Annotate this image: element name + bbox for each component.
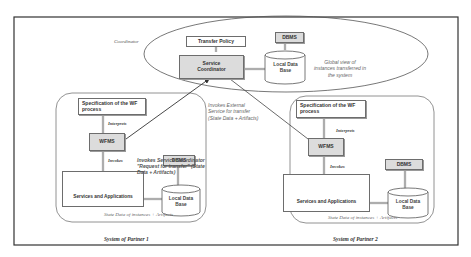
coordinator-local-db-label: Local Data Base — [266, 62, 305, 74]
partner1-spec-box: Specification of the WFprocess — [78, 98, 146, 115]
invokes-coordinator-note: Invokes Service Coordinator "Request for… — [137, 157, 205, 175]
partner2-local-db-label: Local Data Base — [388, 199, 428, 211]
partner1-wfms-box: WFMS — [89, 133, 125, 151]
invokes-external-note: Invokes External Service for transfer (S… — [208, 102, 259, 121]
coordinator-label: Coordinator — [114, 39, 139, 44]
partner2-spec-box: Specification of the WFprocess — [296, 100, 366, 118]
transfer-policy-box: Transfer Policy — [186, 36, 246, 47]
partner2-services-box: Services and Applications — [283, 174, 370, 212]
service-coordinator-box: Service Coordinator — [179, 55, 244, 79]
coordinator-dbms-box: DBMS — [275, 32, 304, 43]
partner1-state-data-label: State Data of instances + Artifacts — [104, 212, 173, 218]
global-view-note: Global view of instances transferred in … — [314, 59, 366, 78]
partner2-caption: System of Partner 2 — [333, 236, 378, 242]
partner1-interprets-label: Interprets — [108, 121, 127, 126]
partner2-dbms-box: DBMS — [385, 159, 423, 170]
partner2-wfms-box: WFMS — [308, 138, 344, 156]
partner1-caption: System of Partner 1 — [104, 236, 149, 242]
partner1-services-box: Services and Applications — [62, 171, 144, 207]
partner1-local-db-label: Local Data Base — [162, 196, 200, 208]
service-coordinator-line2: Coordinator — [197, 67, 226, 73]
partner2-invokes-label: Invokes — [330, 164, 345, 169]
partner2-interprets-label: Interprets — [336, 128, 355, 133]
partner1-invokes-label: Invokes — [108, 158, 123, 163]
partner2-state-data-label: State Data of instances + Artifacts — [328, 215, 397, 221]
